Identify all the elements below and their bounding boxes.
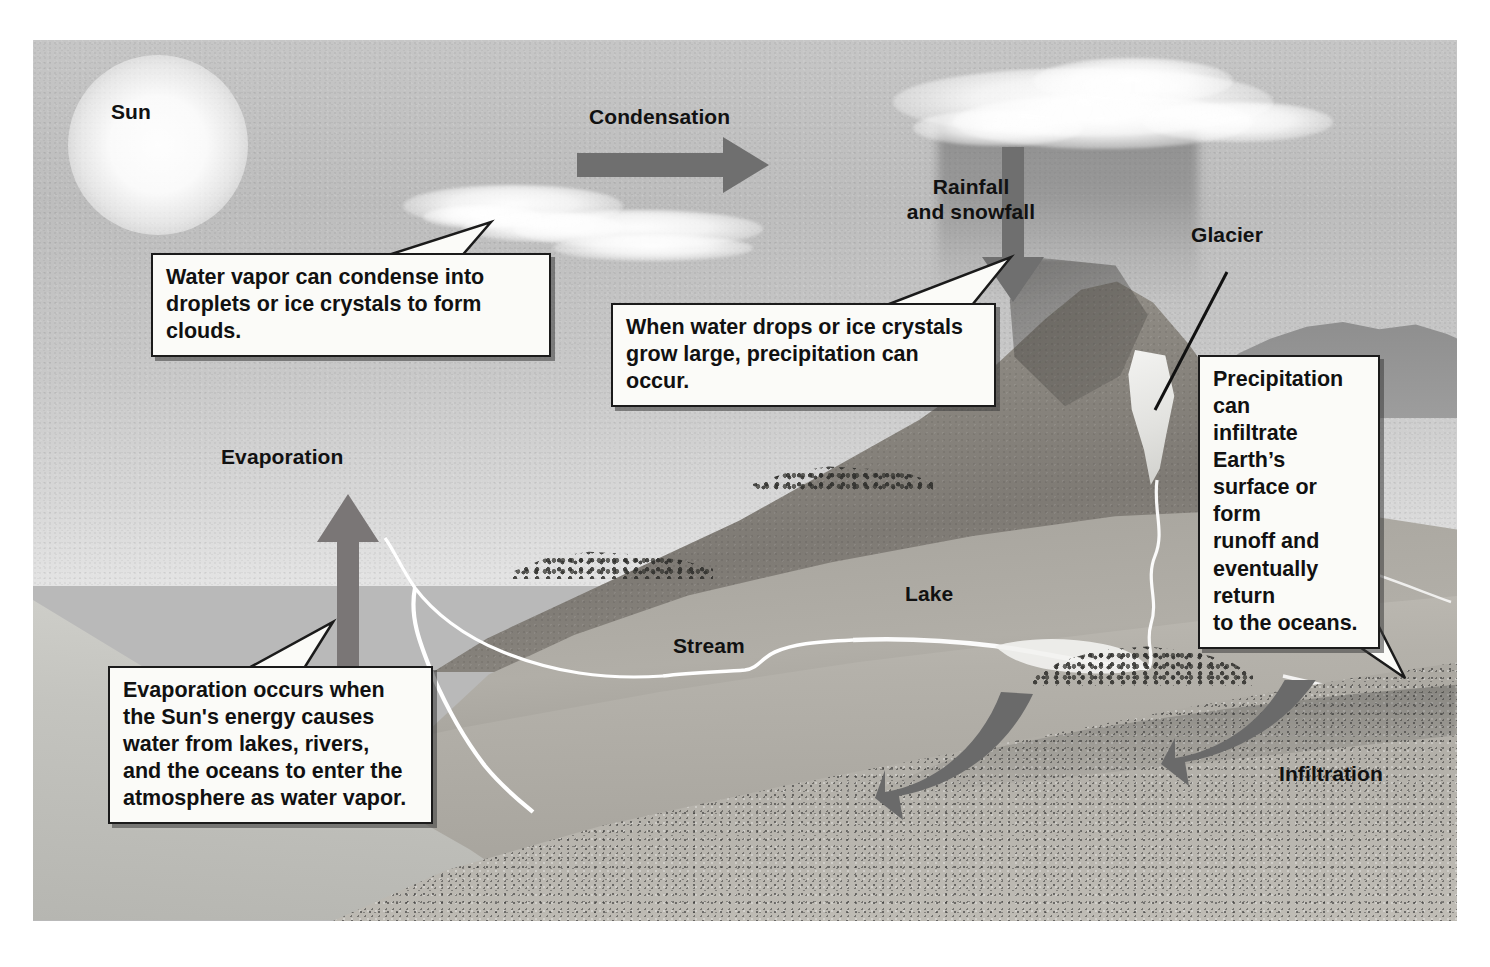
label-condensation: Condensation [589,105,730,130]
label-infiltration: Infiltration [1279,762,1383,787]
callout-evaporation: Evaporation occurs when the Sun's energy… [108,666,433,824]
callout-condensation: Water vapor can condense into droplets o… [151,253,551,357]
label-sun: Sun [111,100,151,125]
meltwater-stream [1149,480,1159,668]
water-cycle-illustration: Sun Condensation Rainfall and snowfall G… [33,40,1457,921]
label-rainfall-snowfall: Rainfall and snowfall [881,175,1061,225]
label-lake: Lake [905,582,953,607]
label-evaporation: Evaporation [221,445,343,470]
callout-runoff: Precipitation can infiltrate Earth’s sur… [1198,355,1380,649]
label-glacier: Glacier [1191,223,1263,248]
diagram-canvas: Sun Condensation Rainfall and snowfall G… [0,0,1490,967]
label-stream: Stream [673,634,745,659]
callout-precipitation: When water drops or ice crystals grow la… [611,303,996,407]
condensation-arrow [573,135,773,195]
